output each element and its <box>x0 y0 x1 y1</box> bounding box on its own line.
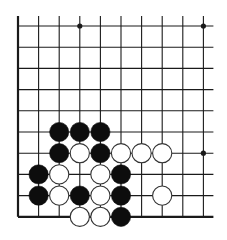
board-grid <box>18 16 213 217</box>
black-stone[interactable] <box>29 165 48 184</box>
white-stone[interactable] <box>91 207 110 226</box>
white-stone[interactable] <box>91 165 110 184</box>
black-stone[interactable] <box>91 144 110 163</box>
black-stone[interactable] <box>70 122 89 141</box>
white-stone[interactable] <box>153 144 172 163</box>
star-point-icon <box>201 23 206 28</box>
black-stone[interactable] <box>50 122 69 141</box>
black-stone[interactable] <box>111 186 130 205</box>
white-stone[interactable] <box>70 144 89 163</box>
black-stone[interactable] <box>50 144 69 163</box>
star-point-icon <box>77 23 82 28</box>
white-stone[interactable] <box>91 186 110 205</box>
white-stone[interactable] <box>50 186 69 205</box>
go-board[interactable] <box>0 0 227 240</box>
black-stone[interactable] <box>91 122 110 141</box>
white-stone[interactable] <box>132 144 151 163</box>
white-stone[interactable] <box>111 144 130 163</box>
black-stone[interactable] <box>70 186 89 205</box>
white-stone[interactable] <box>50 165 69 184</box>
star-point-icon <box>201 151 206 156</box>
black-stone[interactable] <box>111 207 130 226</box>
black-stone[interactable] <box>111 165 130 184</box>
black-stone[interactable] <box>29 186 48 205</box>
white-stone[interactable] <box>70 207 89 226</box>
white-stone[interactable] <box>153 186 172 205</box>
